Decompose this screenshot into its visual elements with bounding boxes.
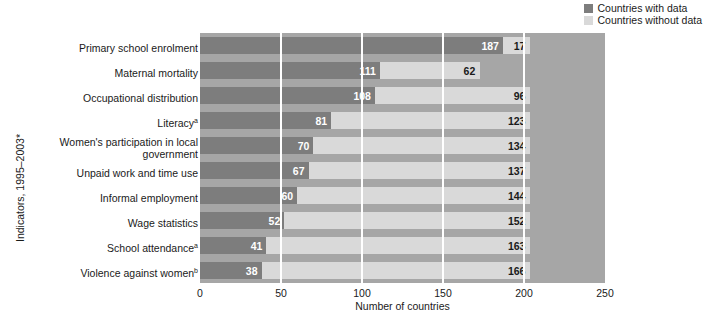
bar-segment-with-data: 60 — [200, 187, 297, 204]
category-label: Wage statistics — [18, 218, 198, 230]
bar-segment-without-data: 166 — [262, 262, 531, 279]
bar-value-with-data: 81 — [316, 115, 328, 127]
category-label: Violence against womenb — [18, 268, 198, 280]
category-label: Literacya — [18, 118, 198, 130]
bar-row: 52152 — [200, 212, 605, 229]
y-axis-category-labels: Primary school enrolmentMaternal mortali… — [18, 36, 198, 282]
x-tick-label: 50 — [275, 287, 287, 299]
bar-value-with-data: 187 — [481, 40, 499, 52]
bar-segment-with-data: 187 — [200, 37, 503, 54]
bar-segment-with-data: 111 — [200, 62, 380, 79]
bar-row: 38166 — [200, 262, 605, 279]
bar-segment-with-data: 38 — [200, 262, 262, 279]
bar-value-with-data: 60 — [282, 190, 294, 202]
category-label: Maternal mortality — [18, 68, 198, 80]
bar-row: 67137 — [200, 162, 605, 179]
bar-row: 70134 — [200, 137, 605, 154]
category-label: School attendancea — [18, 243, 198, 255]
legend-label-with-data: Countries with data — [598, 3, 688, 14]
category-label: Women's participation in local governmen… — [18, 137, 198, 160]
x-tick-label: 250 — [596, 287, 614, 299]
bar-value-without-data: 62 — [464, 65, 476, 77]
legend-label-without-data: Countries without data — [598, 15, 702, 26]
y-axis-title: Indicators, 1995–2003* — [2, 92, 16, 242]
bar-segment-with-data: 41 — [200, 237, 266, 254]
bar-segment-without-data: 137 — [309, 162, 531, 179]
bar-row: 81123 — [200, 112, 605, 129]
chart-legend: Countries with data Countries without da… — [584, 3, 702, 26]
gridline — [361, 33, 363, 283]
bar-segment-with-data: 52 — [200, 212, 284, 229]
bar-row: 10896 — [200, 87, 605, 104]
bar-segment-without-data: 152 — [284, 212, 530, 229]
category-label: Unpaid work and time use — [18, 168, 198, 180]
category-label: Primary school enrolment — [18, 43, 198, 55]
bar-value-with-data: 67 — [293, 165, 305, 177]
bar-segment-with-data: 108 — [200, 87, 375, 104]
bar-row: 60144 — [200, 187, 605, 204]
x-tick-label: 0 — [197, 287, 203, 299]
x-tick-label: 150 — [434, 287, 452, 299]
bar-row: 11162 — [200, 62, 605, 79]
bar-value-with-data: 41 — [251, 240, 263, 252]
stacked-bar-chart: Countries with data Countries without da… — [0, 0, 710, 324]
gridline — [280, 33, 282, 283]
bar-segment-without-data: 134 — [313, 137, 530, 154]
x-axis: 050100150200250 — [200, 283, 605, 284]
legend-swatch-with-data — [584, 4, 593, 13]
bar-row: 18717 — [200, 37, 605, 54]
gridline — [523, 33, 525, 283]
bar-segment-with-data: 81 — [200, 112, 331, 129]
legend-item-countries-without-data: Countries without data — [584, 15, 702, 26]
category-label: Occupational distribution — [18, 93, 198, 105]
category-label: Informal employment — [18, 193, 198, 205]
bar-segment-without-data: 96 — [375, 87, 531, 104]
bar-segment-without-data: 17 — [503, 37, 531, 54]
bar-value-with-data: 38 — [246, 265, 258, 277]
plot-area: 1871711162108968112370134671376014452152… — [200, 33, 605, 283]
bar-segment-with-data: 70 — [200, 137, 313, 154]
bar-segment-without-data: 62 — [380, 62, 480, 79]
bar-row: 41163 — [200, 237, 605, 254]
gridline — [442, 33, 444, 283]
bar-segment-without-data: 163 — [266, 237, 530, 254]
bar-segment-with-data: 67 — [200, 162, 309, 179]
bar-value-with-data: 70 — [298, 140, 310, 152]
x-tick-label: 200 — [515, 287, 533, 299]
legend-swatch-without-data — [584, 16, 593, 25]
legend-item-countries-with-data: Countries with data — [584, 3, 688, 14]
bar-segment-without-data: 144 — [297, 187, 530, 204]
x-tick-label: 100 — [353, 287, 371, 299]
x-axis-title: Number of countries — [200, 300, 605, 312]
bar-value-with-data: 52 — [269, 215, 281, 227]
